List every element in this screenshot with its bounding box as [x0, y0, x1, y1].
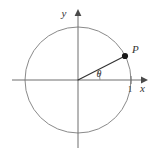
radius-segment: [78, 56, 125, 80]
diagram-canvas: y x 1 P θ: [0, 0, 156, 156]
point-p-label: P: [131, 43, 139, 55]
y-axis-label: y: [61, 7, 67, 19]
y-axis-arrow-icon: [75, 9, 82, 16]
angle-theta-label: θ: [97, 68, 102, 79]
x-tick-one-label: 1: [128, 84, 133, 94]
x-axis-label: x: [139, 82, 145, 94]
point-p-dot: [122, 53, 128, 59]
unit-circle-figure: y x 1 P θ: [0, 0, 156, 156]
